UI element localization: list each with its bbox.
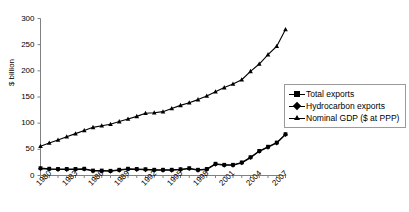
legend-item-nominal-gdp: Nominal GDP ($ at PPP): [289, 112, 402, 124]
y-tick-label: 200: [11, 67, 35, 75]
line-chart: $ billion 300250200150100500 19801983198…: [0, 0, 409, 212]
legend-label-nominal-gdp: Nominal GDP ($ at PPP): [305, 113, 399, 123]
y-tick-label: 100: [11, 119, 35, 127]
data-series: [38, 27, 288, 174]
series-line-0: [39, 132, 288, 172]
y-tick-label: 300: [11, 15, 35, 23]
diamond-marker-icon: [289, 101, 305, 111]
legend-label-total-exports: Total exports: [305, 89, 354, 99]
y-tick-label: 50: [11, 145, 35, 153]
triangle-marker-icon: [289, 113, 305, 123]
square-marker-icon: [289, 89, 305, 99]
legend-item-hydrocarbon-exports: Hydrocarbon exports: [289, 100, 402, 112]
series-line-1: [38, 132, 288, 173]
y-tick-label: 150: [11, 93, 35, 101]
y-tick-label: 0: [11, 172, 35, 180]
y-tick-label: 250: [11, 41, 35, 49]
axes: [38, 19, 286, 179]
legend-label-hydrocarbon-exports: Hydrocarbon exports: [305, 101, 385, 111]
chart-legend: Total exports Hydrocarbon exports Nomina…: [284, 84, 406, 128]
series-line-2: [38, 27, 288, 148]
legend-item-total-exports: Total exports: [289, 88, 402, 100]
